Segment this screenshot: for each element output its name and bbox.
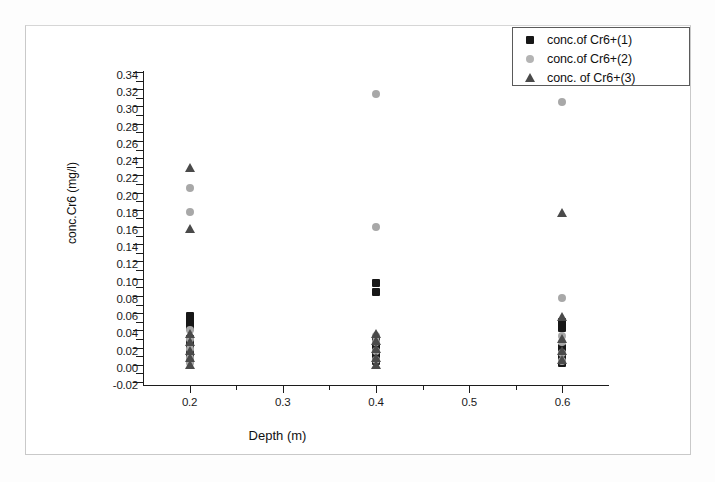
x-tick [469, 385, 470, 393]
y-tick-label: 0.16 [116, 224, 138, 236]
data-point [186, 184, 194, 192]
data-point [185, 163, 195, 172]
data-point [557, 312, 567, 321]
data-point [557, 334, 567, 343]
x-tick-label: 0.5 [449, 396, 489, 408]
square-marker-icon [513, 36, 547, 44]
x-tick-label: 0.6 [542, 396, 582, 408]
x-minor-tick [236, 385, 237, 390]
data-point [185, 360, 195, 369]
x-tick-label: 0.3 [263, 396, 303, 408]
y-tick-label-wrap: 0.02 [90, 341, 138, 359]
y-axis-title: conc.Cr6 (mg/l) [65, 123, 79, 283]
x-minor-tick [423, 385, 424, 390]
y-tick-label-wrap: 0.00 [90, 358, 138, 376]
y-tick-label: 0.00 [116, 362, 138, 374]
x-tick [562, 385, 563, 393]
y-tick-label-wrap: 0.20 [90, 186, 138, 204]
legend-label-series-3: conc. of Cr6+(3) [547, 71, 635, 85]
y-tick-label: 0.02 [116, 345, 138, 357]
legend-label-series-2: conc.of Cr6+(2) [547, 52, 632, 66]
data-point [558, 294, 566, 302]
y-tick-label-wrap: 0.16 [90, 220, 138, 238]
data-point [186, 208, 194, 216]
y-tick-label: 0.04 [116, 327, 138, 339]
y-tick-label-wrap: 0.12 [90, 254, 138, 272]
x-tick-label: 0.4 [356, 396, 396, 408]
data-point [557, 355, 567, 364]
data-point [557, 208, 567, 217]
circle-marker-icon [513, 55, 547, 63]
data-point [371, 360, 381, 369]
y-tick-label: 0.10 [116, 276, 138, 288]
legend-item-series-2[interactable]: conc.of Cr6+(2) [513, 49, 689, 68]
x-tick [190, 385, 191, 393]
triangle-marker-icon [513, 73, 547, 82]
legend-item-series-3[interactable]: conc. of Cr6+(3) [513, 68, 689, 87]
y-tick-label-wrap: 0.18 [90, 203, 138, 221]
y-tick-label-wrap: 0.10 [90, 272, 138, 290]
data-point [185, 224, 195, 233]
y-tick-label: 0.26 [116, 138, 138, 150]
y-tick-label: 0.20 [116, 190, 138, 202]
y-tick-label: 0.30 [116, 103, 138, 115]
data-point [558, 324, 566, 332]
y-tick-label: 0.08 [116, 293, 138, 305]
x-axis-title-text: Depth (m) [249, 428, 307, 443]
y-tick-label-wrap: 0.06 [90, 306, 138, 324]
y-tick-label: 0.06 [116, 310, 138, 322]
data-point [372, 223, 380, 231]
y-axis-line [143, 71, 144, 386]
data-point [558, 98, 566, 106]
data-point [372, 279, 380, 287]
y-tick-label: 0.34 [116, 69, 138, 81]
y-tick-label-wrap: 0.32 [90, 82, 138, 100]
y-tick-label-wrap: 0.34 [90, 65, 138, 83]
x-minor-tick [516, 385, 517, 390]
y-tick-label: 0.18 [116, 207, 138, 219]
x-minor-tick [329, 385, 330, 390]
y-tick-label-wrap: 0.22 [90, 168, 138, 186]
y-tick-label: 0.14 [116, 241, 138, 253]
y-tick-label-wrap: 0.26 [90, 134, 138, 152]
y-tick-label: 0.28 [116, 121, 138, 133]
y-tick-label: 0.32 [116, 86, 138, 98]
x-tick [283, 385, 284, 393]
scatter-plot: -0.020.000.020.040.060.080.100.120.140.1… [0, 0, 715, 482]
y-tick-label-wrap: 0.14 [90, 237, 138, 255]
y-tick-label-wrap: 0.04 [90, 323, 138, 341]
legend-label-series-1: conc.of Cr6+(1) [547, 33, 632, 47]
y-tick-label: -0.02 [113, 379, 138, 391]
y-tick-label: 0.12 [116, 258, 138, 270]
y-tick-label-wrap: 0.24 [90, 151, 138, 169]
x-axis-title: Depth (m) [0, 428, 715, 443]
chart-legend: conc.of Cr6+(1) conc.of Cr6+(2) conc. of… [512, 27, 690, 86]
y-tick-label-wrap: -0.02 [90, 375, 138, 393]
y-tick-label-wrap: 0.28 [90, 117, 138, 135]
x-tick [376, 385, 377, 393]
y-tick-label: 0.22 [116, 172, 138, 184]
y-tick-label-wrap: 0.08 [90, 289, 138, 307]
data-point [372, 90, 380, 98]
legend-item-series-1[interactable]: conc.of Cr6+(1) [513, 30, 689, 49]
y-tick-label: 0.24 [116, 155, 138, 167]
y-tick-label-wrap: 0.30 [90, 99, 138, 117]
x-tick-label: 0.2 [170, 396, 210, 408]
data-point [372, 288, 380, 296]
